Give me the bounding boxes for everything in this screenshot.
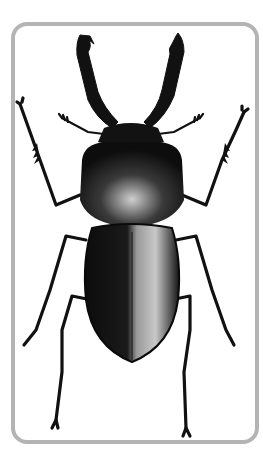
elytra (85, 224, 179, 362)
pronotum (80, 142, 184, 224)
mandibles (77, 33, 184, 128)
stag-beetle-image (0, 0, 263, 451)
